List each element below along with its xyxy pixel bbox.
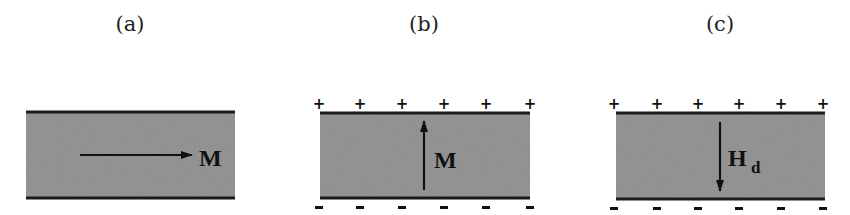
positive-charge-icon: + (480, 95, 493, 113)
negative-charge-icon (694, 207, 702, 210)
panel-a: (a) M (26, 12, 235, 198)
positive-charge-icon: + (396, 95, 409, 113)
negative-charge-icon (315, 206, 323, 209)
negative-charge-icon (440, 206, 448, 209)
positive-charge-icon: + (733, 95, 746, 113)
negative-charge-icon (653, 207, 661, 210)
positive-charge-icon: + (817, 95, 830, 113)
positive-charge-icon: + (354, 95, 367, 113)
negative-charge-icon (526, 206, 534, 209)
positive-charge-icon: + (692, 95, 705, 113)
negative-charge-icon (482, 206, 490, 209)
bottom-surface-charges (315, 206, 534, 209)
positive-charge-icon: + (775, 95, 788, 113)
vector-subscript-d: d (751, 158, 761, 177)
panel-label-c: (c) (706, 12, 734, 36)
vector-label-h: H (728, 145, 747, 171)
negative-charge-icon (819, 207, 827, 210)
bottom-surface-charges (610, 207, 827, 210)
positive-charge-icon: + (524, 95, 537, 113)
top-surface-charges: + + + + + + (608, 95, 830, 113)
positive-charge-icon: + (608, 95, 621, 113)
positive-charge-icon: + (651, 95, 664, 113)
panel-c: (c) + + + + + + H d (608, 12, 830, 210)
panel-b: (b) + + + + + + M (313, 12, 537, 209)
negative-charge-icon (735, 207, 743, 210)
negative-charge-icon (777, 207, 785, 210)
panel-label-b: (b) (409, 12, 439, 36)
positive-charge-icon: + (438, 95, 451, 113)
top-surface-charges: + + + + + + (313, 95, 537, 113)
negative-charge-icon (398, 206, 406, 209)
positive-charge-icon: + (313, 95, 326, 113)
negative-charge-icon (356, 206, 364, 209)
vector-label-m: M (434, 147, 457, 173)
negative-charge-icon (610, 207, 618, 210)
vector-label-m: M (199, 145, 222, 171)
panel-label-a: (a) (116, 12, 145, 36)
thin-film-magnetization-diagram: (a) M (b) + + + + + + M (c (0, 0, 850, 215)
